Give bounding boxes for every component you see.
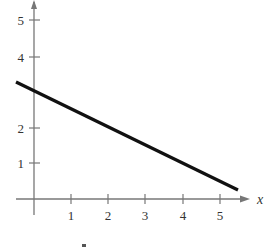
y-tick-label-2: 2 [18,121,25,136]
x-tick-label-2: 2 [105,208,112,223]
x-tick-label-3: 3 [142,208,149,223]
x-tick-label-4: 4 [180,208,187,223]
x-axis-label: x [256,192,264,207]
y-axis-arrow-icon [31,0,37,9]
y-tick-label-4: 4 [18,50,25,65]
y-tick-label-5: 5 [18,13,25,28]
y-tick-label-1: 1 [18,156,25,171]
x-tick-label-5: 5 [217,208,224,223]
data-line [16,82,238,190]
x-axis-arrow-icon [240,196,250,203]
line-chart: 1 2 4 5 1 2 3 4 5 x [0,0,271,247]
x-tick-label-1: 1 [68,208,75,223]
